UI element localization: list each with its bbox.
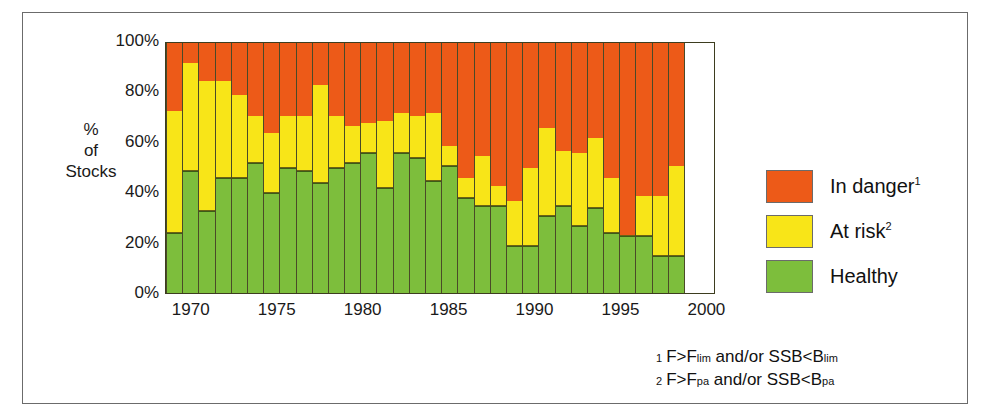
bar-1971 bbox=[198, 43, 215, 293]
bar-segment-in-danger bbox=[507, 43, 522, 200]
bar-1989 bbox=[490, 43, 507, 293]
bar-segment-healthy bbox=[620, 236, 635, 293]
legend-footnote-marker: 2 bbox=[886, 220, 892, 232]
bar-segment-at-risk bbox=[280, 116, 295, 169]
bar-1995 bbox=[587, 43, 604, 293]
bar-1973 bbox=[231, 43, 248, 293]
bar-1986 bbox=[441, 43, 458, 293]
bar-segment-at-risk bbox=[458, 178, 473, 198]
bar-segment-healthy bbox=[475, 206, 490, 294]
bar-segment-at-risk bbox=[539, 128, 554, 216]
y-axis-ticks: 0%20%40%60%80%100% bbox=[97, 13, 159, 415]
bar-segment-healthy bbox=[361, 153, 376, 293]
bar-segment-at-risk bbox=[297, 116, 312, 171]
bar-1994 bbox=[571, 43, 588, 293]
bar-segment-at-risk bbox=[199, 81, 214, 211]
bar-1982 bbox=[376, 43, 393, 293]
plot-area bbox=[165, 42, 715, 294]
y-axis-tick-label: 20% bbox=[97, 233, 159, 253]
footnotes: 1F>Flim and/or SSB<Blim2F>Fpa and/or SSB… bbox=[656, 346, 838, 392]
bar-segment-at-risk bbox=[377, 121, 392, 189]
bar-segment-in-danger bbox=[410, 43, 425, 116]
x-axis-tick-label: 1970 bbox=[172, 300, 210, 320]
bar-segment-at-risk bbox=[588, 138, 603, 208]
chart-frame: % of Stocks 0%20%40%60%80%100% 197019751… bbox=[22, 12, 968, 404]
bar-segment-in-danger bbox=[636, 43, 651, 196]
bar-segment-healthy bbox=[248, 163, 263, 293]
x-axis-tick-label: 1985 bbox=[430, 300, 468, 320]
footnote-2: 2F>Fpa and/or SSB<Bpa bbox=[656, 369, 838, 392]
bar-segment-at-risk bbox=[394, 113, 409, 153]
bar-1981 bbox=[360, 43, 377, 293]
bar-segment-in-danger bbox=[167, 43, 182, 111]
bar-segment-at-risk bbox=[167, 111, 182, 234]
bar-segment-in-danger bbox=[361, 43, 376, 123]
chart-page: % of Stocks 0%20%40%60%80%100% 197019751… bbox=[0, 0, 992, 415]
bar-1969 bbox=[166, 43, 183, 293]
bar-1997 bbox=[619, 43, 636, 293]
bar-segment-in-danger bbox=[297, 43, 312, 116]
bar-1998 bbox=[635, 43, 652, 293]
bar-1972 bbox=[215, 43, 232, 293]
footnote-1: 1F>Flim and/or SSB<Blim bbox=[656, 346, 838, 369]
bar-segment-in-danger bbox=[216, 43, 231, 81]
bar-1991 bbox=[522, 43, 539, 293]
bar-1978 bbox=[312, 43, 329, 293]
bar-segment-in-danger bbox=[491, 43, 506, 186]
bar-segment-at-risk bbox=[442, 146, 457, 166]
bar-1990 bbox=[506, 43, 523, 293]
bar-1979 bbox=[328, 43, 345, 293]
x-axis-tick-label: 2000 bbox=[687, 300, 725, 320]
bar-segment-in-danger bbox=[345, 43, 360, 126]
bar-segment-at-risk bbox=[653, 196, 668, 256]
footnote-number: 1 bbox=[656, 352, 662, 364]
footnote-text: F>F bbox=[666, 370, 697, 389]
bar-segment-at-risk bbox=[507, 201, 522, 246]
x-axis-tick-label: 1995 bbox=[602, 300, 640, 320]
bar-segment-healthy bbox=[588, 208, 603, 293]
bar-segment-in-danger bbox=[556, 43, 571, 151]
bar-segment-healthy bbox=[199, 211, 214, 294]
bar-segment-healthy bbox=[442, 166, 457, 294]
bar-segment-in-danger bbox=[475, 43, 490, 156]
y-axis-tick-label: 100% bbox=[97, 31, 159, 51]
bar-segment-healthy bbox=[216, 178, 231, 293]
bar-segment-healthy bbox=[167, 233, 182, 293]
bar-segment-healthy bbox=[313, 183, 328, 293]
bar-2000 bbox=[668, 43, 685, 293]
bar-segment-in-danger bbox=[280, 43, 295, 116]
bar-segment-healthy bbox=[636, 236, 651, 294]
bar-segment-at-risk bbox=[410, 116, 425, 159]
x-axis-ticks: 1970197519801985199019952000 bbox=[23, 300, 992, 326]
bar-1980 bbox=[344, 43, 361, 293]
bar-segment-in-danger bbox=[329, 43, 344, 116]
bar-segment-healthy bbox=[394, 153, 409, 293]
x-axis-tick-label: 1975 bbox=[258, 300, 296, 320]
bar-segment-in-danger bbox=[183, 43, 198, 63]
legend-label-healthy: Healthy bbox=[830, 265, 898, 288]
bar-segment-healthy bbox=[426, 181, 441, 294]
bar-1993 bbox=[555, 43, 572, 293]
bar-1999 bbox=[652, 43, 669, 293]
bar-segment-healthy bbox=[458, 198, 473, 293]
bar-segment-in-danger bbox=[572, 43, 587, 153]
bar-segment-healthy bbox=[604, 233, 619, 293]
bar-1996 bbox=[603, 43, 620, 293]
bar-segment-healthy bbox=[556, 206, 571, 294]
bar-1985 bbox=[425, 43, 442, 293]
y-axis-tick-label: 80% bbox=[97, 81, 159, 101]
bar-1992 bbox=[538, 43, 555, 293]
bar-segment-healthy bbox=[572, 226, 587, 294]
footnote-number: 2 bbox=[656, 375, 662, 387]
bar-segment-at-risk bbox=[475, 156, 490, 206]
legend-item-danger: In danger1 bbox=[766, 167, 921, 206]
bar-segment-healthy bbox=[264, 193, 279, 293]
bar-segment-in-danger bbox=[588, 43, 603, 138]
bar-segment-healthy bbox=[329, 168, 344, 293]
legend-label-danger: In danger1 bbox=[830, 175, 921, 198]
bar-1984 bbox=[409, 43, 426, 293]
bar-segment-at-risk bbox=[313, 85, 328, 183]
bar-segment-in-danger bbox=[620, 43, 635, 235]
bar-segment-in-danger bbox=[426, 43, 441, 113]
legend-footnote-marker: 1 bbox=[915, 175, 921, 187]
